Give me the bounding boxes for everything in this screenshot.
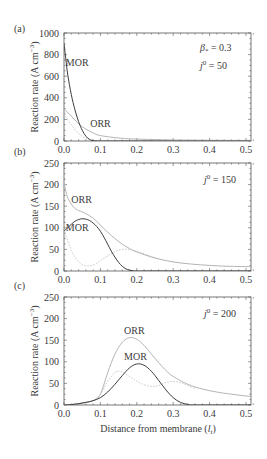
dotted-curve (93, 371, 195, 400)
y-tick-label: 150 (44, 335, 59, 346)
x-tick-label: 0.5 (240, 408, 253, 419)
y-tick-label: 250 (44, 158, 59, 169)
x-tick-label: 0.3 (167, 144, 180, 155)
x-tick-label: 0.2 (131, 274, 144, 285)
y-axis-title: Reaction rate (A cm−3) (28, 171, 41, 262)
x-tick-label: 0.4 (203, 408, 216, 419)
y-tick-label: 50 (49, 244, 59, 255)
orr-curve (64, 182, 253, 266)
panel-label: (c) (14, 280, 25, 292)
beta-annotation: β* = 0.3 (199, 42, 232, 55)
j0-annotation: j0 = 50 (198, 59, 227, 71)
x-tick-label: 0.0 (58, 144, 71, 155)
x-tick-label: 0.3 (167, 274, 180, 285)
x-tick-label: 0.2 (131, 408, 144, 419)
y-tick-label: 200 (44, 114, 59, 125)
mor-curve (64, 219, 253, 271)
curve-label-mor: MOR (66, 57, 89, 68)
y-tick-label: 150 (44, 201, 59, 212)
y-tick-label: 100 (44, 222, 59, 233)
panel-label: (a) (14, 23, 25, 35)
x-tick-label: 0.1 (94, 144, 107, 155)
curve-label-mor: MOR (66, 222, 89, 233)
y-tick-label: 400 (44, 92, 59, 103)
x-tick-label: 0.0 (58, 408, 71, 419)
curve-label-orr: ORR (90, 118, 111, 129)
x-tick-label: 0.5 (240, 274, 253, 285)
x-tick-label: 0.3 (167, 408, 180, 419)
x-tick-label: 0.4 (203, 274, 216, 285)
panel-a: 020040060080010000.00.10.20.30.40.5(a)Re… (14, 23, 253, 155)
figure: 020040060080010000.00.10.20.30.40.5(a)Re… (0, 0, 267, 459)
curve-label-mor: MOR (124, 351, 147, 362)
x-axis-title: Distance from membrane (lt) (100, 423, 216, 436)
x-tick-label: 0.2 (131, 144, 144, 155)
x-tick-label: 0.4 (203, 144, 216, 155)
mor-curve (64, 364, 253, 405)
y-tick-label: 800 (44, 49, 59, 60)
curve-label-orr: ORR (71, 194, 92, 205)
j0-annotation: j0 = 200 (202, 307, 236, 319)
panel-b: 0501001502002500.00.10.20.30.40.5(b)Reac… (14, 146, 253, 285)
y-axis-title: Reaction rate (A cm−3) (28, 305, 41, 396)
panel-c: 0501001502002500.00.10.20.30.40.5(c)Reac… (14, 280, 253, 419)
curve-label-orr: ORR (124, 325, 145, 336)
y-tick-label: 200 (44, 313, 59, 324)
y-tick-label: 50 (49, 378, 59, 389)
y-tick-label: 1000 (39, 28, 59, 39)
y-tick-label: 250 (44, 292, 59, 303)
y-axis-title: Reaction rate (A cm−3) (28, 41, 41, 132)
x-tick-label: 0.1 (94, 274, 107, 285)
y-tick-label: 200 (44, 179, 59, 190)
orr-curve (64, 337, 253, 405)
y-tick-label: 100 (44, 356, 59, 367)
x-tick-label: 0.1 (94, 408, 107, 419)
j0-annotation: j0 = 150 (202, 173, 236, 185)
x-tick-label: 0.0 (58, 274, 71, 285)
x-tick-label: 0.5 (240, 144, 253, 155)
y-tick-label: 600 (44, 71, 59, 82)
panel-label: (b) (14, 146, 26, 158)
